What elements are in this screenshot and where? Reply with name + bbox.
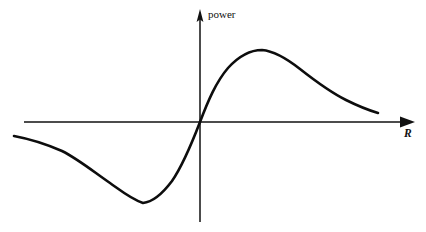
y-axis-label: power (208, 8, 236, 20)
power-curve (14, 50, 378, 203)
right-arrow-icon (400, 117, 415, 128)
figure-container: power R (0, 0, 426, 232)
plot-canvas: power R (0, 0, 426, 232)
x-axis-label: R (403, 127, 412, 139)
